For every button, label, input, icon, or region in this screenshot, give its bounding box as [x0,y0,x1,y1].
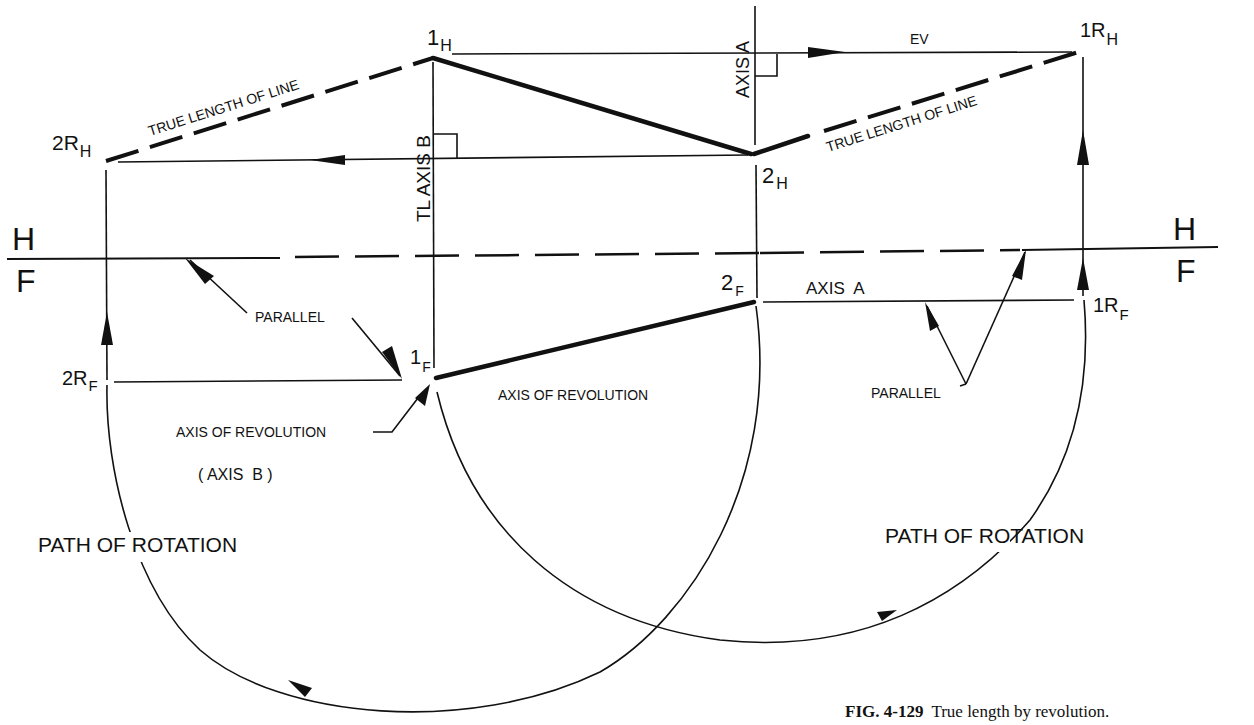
revolution-diagram: 1H 2H 1RH 2RH 1F 2F 1RF 2RF H F H F TRUE… [0,0,1254,725]
path-of-rotation-arc-1 [437,300,1086,642]
label-axis-a-vertical: AXIS A [733,41,753,98]
parallel-right-leader-tick [960,384,966,386]
hf-fold-line-right [1022,247,1218,250]
label-path-of-rotation-left: PATH OF ROTATION [38,533,237,556]
hf-fold-line-dashed [295,253,760,257]
parallel-right-arrowhead-1 [925,302,939,331]
figure-caption: FIG. 4-129True length by revolution. [845,702,1109,721]
parallel-left-leader-2 [352,318,400,376]
true-length-line-right [824,50,1085,131]
1rf-arrowhead [1077,258,1089,290]
plane-label-f-left: F [16,263,36,299]
label-2rh: 2RH [52,131,91,160]
1rh-arrowhead [1077,130,1089,165]
label-true-length-left: TRUE LENGTH OF LINE [146,76,301,139]
line-2h-segment [754,136,808,154]
label-1rh: 1RH [1080,19,1118,48]
plane-label-h-right: H [1173,211,1196,247]
label-2rf: 2RF [62,367,98,394]
label-axis-a-front: AXIS A [806,279,865,298]
axis-of-revolution-leader [373,398,418,432]
label-parallel-right: PARALLEL [871,385,941,401]
path-rotation-arrowhead-left [288,680,312,697]
label-axis-of-revolution-left: AXIS OF REVOLUTION [176,424,326,440]
label-parallel-left: PARALLEL [255,309,325,325]
2rh-arrowhead [310,155,345,165]
line-1f-2f [436,302,754,378]
label-axis-of-revolution-center: AXIS OF REVOLUTION [498,387,648,403]
ev-arrowhead [808,47,845,58]
ev-line [452,52,1072,54]
parallel-left-arrowhead-1 [185,258,214,284]
label-tl-axis-b: TL AXIS B [413,135,434,222]
label-axis-b-paren: ( AXIS B ) [198,466,273,483]
label-1rf: 1RF [1093,294,1129,323]
label-ev: EV [910,31,929,47]
right-angle-mark-axis-a [755,54,777,76]
projector-2r [106,170,107,380]
2rf-arrowhead [101,312,113,345]
parallel-left-arrowhead-2 [382,346,402,379]
label-1h: 1H [427,25,452,54]
label-2f: 2F [721,270,744,299]
label-1f: 1F [410,346,431,375]
line-2rf-1f [114,380,402,382]
label-2h: 2H [762,163,788,192]
hf-fold-line-dashed-2 [760,250,1020,253]
right-angle-mark-axis-b [434,134,457,158]
true-length-line-left [106,58,433,161]
plane-label-f-right: F [1176,253,1196,289]
plane-label-h-left: H [12,221,35,257]
hf-fold-line-left [7,258,280,259]
parallel-right-arrowhead-2 [1012,250,1026,280]
label-path-of-rotation-right: PATH OF ROTATION [885,524,1084,547]
axis-a-projection-line [756,165,757,298]
line-1h-2h [433,58,751,154]
axis-of-revolution-arrowhead [415,384,430,406]
axis-a-front-line [763,300,1074,302]
